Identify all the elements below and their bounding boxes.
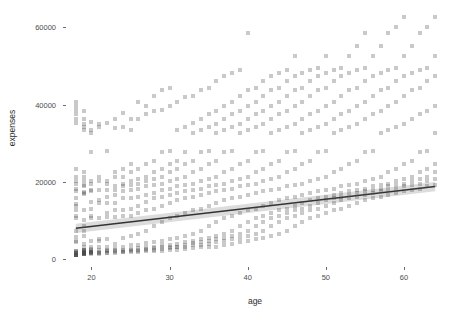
data-point (97, 179, 101, 183)
data-point (433, 54, 437, 58)
data-point (168, 201, 172, 205)
data-point (379, 88, 383, 92)
data-point (74, 235, 78, 239)
data-point (207, 236, 211, 240)
data-point (371, 54, 375, 58)
data-point (121, 236, 125, 240)
data-point (347, 204, 351, 208)
data-point (433, 170, 437, 174)
data-point (402, 94, 406, 98)
data-point (402, 162, 406, 166)
data-point (277, 112, 281, 116)
data-point (129, 234, 133, 238)
data-point (214, 183, 218, 187)
data-point (129, 128, 133, 132)
data-point (74, 108, 78, 112)
data-point (285, 229, 289, 233)
data-point (269, 188, 273, 192)
data-point (144, 112, 148, 116)
data-point (136, 243, 140, 247)
data-point (300, 131, 304, 135)
data-point (347, 193, 351, 197)
data-point (222, 182, 226, 186)
data-point (121, 182, 125, 186)
data-point (277, 198, 281, 202)
data-point (254, 207, 258, 211)
data-point (379, 195, 383, 199)
data-point (113, 215, 117, 219)
data-point (254, 232, 258, 236)
data-point (316, 74, 320, 78)
data-point (386, 193, 390, 197)
data-point (183, 189, 187, 193)
data-point (254, 224, 258, 228)
data-point (207, 224, 211, 228)
data-point (160, 239, 164, 243)
data-point (89, 207, 93, 211)
data-point (293, 214, 297, 218)
data-point (175, 191, 179, 195)
data-point (82, 128, 86, 132)
data-point (425, 179, 429, 183)
data-point (144, 179, 148, 183)
data-point (222, 236, 226, 240)
data-point (136, 177, 140, 181)
data-point (339, 184, 343, 188)
data-point (160, 108, 164, 112)
data-point (183, 196, 187, 200)
data-point (410, 183, 414, 187)
data-point (339, 112, 343, 116)
data-point (238, 68, 242, 72)
data-point (339, 66, 343, 70)
data-point (105, 188, 109, 192)
data-point (324, 175, 328, 179)
data-point (316, 150, 320, 154)
data-point (144, 241, 148, 245)
data-point (199, 167, 203, 171)
data-point (261, 220, 265, 224)
data-point (160, 88, 164, 92)
data-point (144, 193, 148, 197)
data-point (324, 149, 328, 153)
data-point (214, 175, 218, 179)
data-point (152, 224, 156, 228)
data-point (355, 86, 359, 90)
data-point (74, 208, 78, 212)
data-point (175, 198, 179, 202)
data-point (433, 104, 437, 108)
data-point (293, 167, 297, 171)
data-point (386, 68, 390, 72)
data-point (269, 211, 273, 215)
data-point (74, 214, 78, 218)
data-point (425, 167, 429, 171)
data-point (246, 88, 250, 92)
data-point (410, 175, 414, 179)
data-point (222, 117, 226, 121)
data-point (269, 216, 273, 220)
data-point (246, 104, 250, 108)
data-point (277, 86, 281, 90)
data-point (207, 184, 211, 188)
data-point (347, 125, 351, 129)
data-point (285, 211, 289, 215)
data-point (324, 71, 328, 75)
data-point (230, 214, 234, 218)
data-point (144, 184, 148, 188)
data-point (339, 195, 343, 199)
data-point (425, 149, 429, 153)
data-point (129, 207, 133, 211)
data-point (105, 195, 109, 199)
data-point (324, 54, 328, 58)
data-point (410, 159, 414, 163)
data-point (238, 236, 242, 240)
data-point (121, 214, 125, 218)
x-tick-label: 20 (87, 273, 95, 282)
data-point (144, 200, 148, 204)
data-point (379, 187, 383, 191)
data-point (238, 240, 242, 244)
data-point (129, 179, 133, 183)
x-tick-mark (326, 267, 327, 270)
data-point (214, 234, 218, 238)
data-point (214, 131, 218, 135)
data-point (183, 183, 187, 187)
